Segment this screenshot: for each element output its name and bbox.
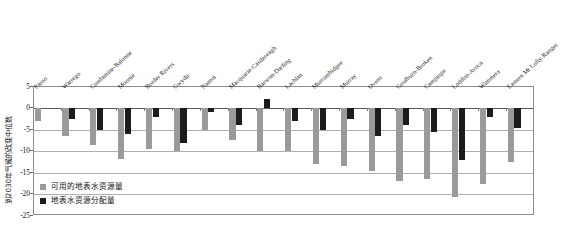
legend-item: 地表水资源分配量 xyxy=(40,197,123,205)
bar-available xyxy=(229,108,235,140)
bar-group xyxy=(285,87,313,215)
bar-allocated xyxy=(514,108,520,127)
bar-allocated xyxy=(69,108,75,119)
y-axis-tick-label: -25 xyxy=(4,211,30,220)
y-axis-tick-label: -20 xyxy=(4,189,30,198)
bar-available xyxy=(257,108,263,151)
bar-group xyxy=(424,87,452,215)
legend-swatch-allocated-icon xyxy=(40,198,46,204)
bar-group xyxy=(145,87,173,215)
bar-allocated xyxy=(180,108,186,143)
bar-allocated xyxy=(264,99,270,108)
bar-available xyxy=(508,108,514,162)
bar-allocated xyxy=(347,108,353,119)
x-axis-category-label: Eastern Mt Lofty Ranges xyxy=(505,40,559,89)
bar-available xyxy=(35,108,41,121)
bar-allocated xyxy=(97,108,103,130)
chart-legend: 可用的地表水资源量 地表水资源分配量 xyxy=(40,183,123,211)
bar-allocated xyxy=(403,108,409,125)
bar-allocated xyxy=(487,108,493,117)
bar-available xyxy=(285,108,291,151)
bar-group xyxy=(201,87,229,215)
bar-available xyxy=(146,108,152,149)
bar-available xyxy=(202,108,208,130)
bar-available xyxy=(174,108,180,151)
y-axis-tick-label: 0 xyxy=(4,103,30,112)
legend-item: 可用的地表水资源量 xyxy=(40,183,123,191)
bar-available xyxy=(313,108,319,164)
bar-allocated xyxy=(375,108,381,136)
x-axis-category-label: Macquarie-Castlereagh xyxy=(227,44,277,90)
legend-swatch-available-icon xyxy=(40,184,46,190)
bar-allocated xyxy=(153,108,159,117)
bar-available xyxy=(452,108,458,196)
bar-group xyxy=(257,87,285,215)
bar-available xyxy=(62,108,68,136)
y-axis-title: 到2030年气候的改变中位数 xyxy=(3,100,13,220)
bar-available xyxy=(341,108,347,166)
bar-allocated xyxy=(459,108,465,160)
bar-group xyxy=(312,87,340,215)
bar-allocated xyxy=(208,108,214,112)
bar-allocated xyxy=(431,108,437,132)
bar-allocated xyxy=(125,108,131,134)
bar-available xyxy=(396,108,402,181)
y-axis-tick-label: 5 xyxy=(4,82,30,91)
chart-figure: 到2030年气候的改变中位数 50-5-10-15-20-25 ParooWar… xyxy=(0,0,567,250)
legend-label-available: 可用的地表水资源量 xyxy=(51,183,123,191)
bar-allocated xyxy=(320,108,326,130)
bar-allocated xyxy=(236,108,242,125)
legend-label-allocated: 地表水资源分配量 xyxy=(51,197,115,205)
y-axis-tick-label: -5 xyxy=(4,125,30,134)
bar-allocated xyxy=(292,108,298,121)
bar-available xyxy=(369,108,375,171)
bar-group xyxy=(507,87,534,215)
bar-group xyxy=(368,87,396,215)
bar-group xyxy=(229,87,257,215)
bar-group xyxy=(173,87,201,215)
bar-group xyxy=(340,87,368,215)
bar-available xyxy=(118,108,124,159)
y-axis-tick-mark xyxy=(30,215,33,216)
y-axis-tick-label: -15 xyxy=(4,168,30,177)
bar-group xyxy=(396,87,424,215)
bar-group xyxy=(452,87,480,215)
bar-available xyxy=(480,108,486,184)
bar-available xyxy=(424,108,430,179)
bar-group xyxy=(479,87,507,215)
y-axis-tick-label: -10 xyxy=(4,146,30,155)
bar-available xyxy=(90,108,96,145)
